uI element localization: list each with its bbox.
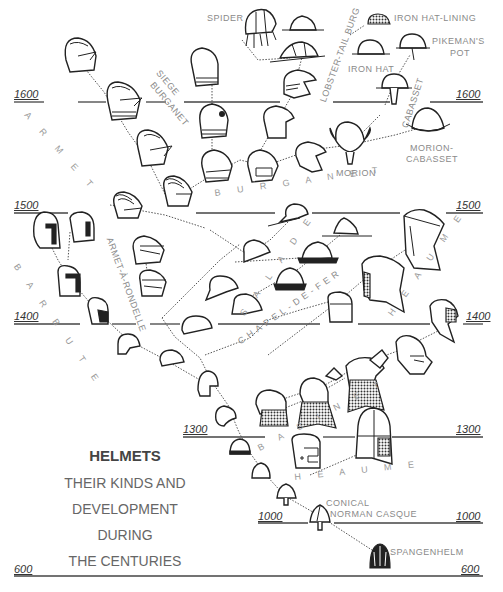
heaume-small-helmet <box>328 292 352 322</box>
chapel-de-fer-helmet-1 <box>322 218 372 236</box>
title-line-1: THEIR KINDS AND <box>60 470 190 496</box>
title-main: HELMETS <box>60 447 190 464</box>
barbute-helmet-4 <box>88 298 108 324</box>
siege-burganet-helmet-3 <box>202 150 232 182</box>
armet-helmet-1 <box>65 38 96 72</box>
morion-helmet <box>330 122 370 164</box>
label-morion: MORION <box>336 168 376 178</box>
bascinet-helmet-5 <box>256 390 288 426</box>
great-helm-cross-helmet <box>356 408 392 464</box>
barbute-helmet-1 <box>34 212 60 248</box>
burganet-helmet-1 <box>248 150 278 182</box>
label-pikemans-pot-2: POT <box>450 48 470 58</box>
pikemans-pot-helmet <box>396 34 430 60</box>
round-cap-helmet <box>216 406 236 426</box>
label-morion-cabasset-1: MORION- <box>410 143 454 153</box>
armet-helmet-5 <box>114 192 142 218</box>
label-spider: SPIDER <box>207 13 244 23</box>
era-label-1400-right: 1400 <box>466 310 490 322</box>
lobster-tail-burg-helmet <box>284 70 316 98</box>
era-label-1300-right: 1300 <box>456 423 480 435</box>
armet-a-rondelle-helmet-2 <box>140 270 166 296</box>
salade-helmet-3 <box>206 276 238 300</box>
era-label-1600-right: 1600 <box>456 88 480 100</box>
conical-helmet-small <box>277 484 296 505</box>
siege-burganet-helmet-1 <box>191 48 218 86</box>
label-spangenhelm: SPANGENHELM <box>390 547 464 557</box>
era-label-600-right: 600 <box>461 563 479 575</box>
burganet-helmet-3 <box>296 142 326 172</box>
bascinet-helmet-1 <box>430 300 458 342</box>
era-label-1000-right: 1000 <box>456 510 480 522</box>
salade-helmet-4 <box>182 316 212 334</box>
kettle-hat-small <box>198 371 218 396</box>
early-dome-helmet <box>252 463 270 478</box>
armet-a-rondelle-helmet-1 <box>133 236 164 264</box>
era-label-1600-left: 1600 <box>14 88 38 100</box>
conical-norman-casque-helmet <box>310 505 330 530</box>
salade-helmet-2 <box>244 240 270 262</box>
barbute-helmet-5 <box>118 334 140 354</box>
label-morion-cabasset-2: CABASSET <box>406 154 458 164</box>
spangenhelm-helmet <box>370 544 390 568</box>
great-helm-flat-helmet <box>292 434 320 468</box>
dome-helmet-dark-rim <box>230 439 250 454</box>
armet-helmet-2 <box>107 82 142 120</box>
siege-burganet-helmet-2 <box>200 104 228 138</box>
barbute-helmet-6 <box>160 350 184 366</box>
armet-helmet-3 <box>137 130 172 166</box>
era-label-600-left: 600 <box>14 563 32 575</box>
label-conical-1: CONICAL <box>326 498 370 508</box>
armet-helmet-4 <box>164 176 192 206</box>
era-label-1000-left: 1000 <box>258 510 282 522</box>
label-iron-hat: IRON HAT <box>348 64 394 74</box>
era-label-1400-left: 1400 <box>14 310 38 322</box>
iron-hat-helmet <box>352 40 390 54</box>
spider-helmet <box>246 10 277 49</box>
era-label-1300-left: 1300 <box>183 423 207 435</box>
title-block: HELMETS THEIR KINDS AND DEVELOPMENT DURI… <box>60 447 190 574</box>
burganet-helmet-2 <box>264 106 294 138</box>
chapel-de-fer-helmet-2 <box>298 242 338 263</box>
era-label-1500-left: 1500 <box>14 199 38 211</box>
label-pikemans-pot-1: PIKEMAN'S <box>432 36 485 46</box>
bascinet-helmet-2 <box>396 336 432 374</box>
title-line-2: DEVELOPMENT DURING <box>60 496 190 548</box>
barbute-helmet-3 <box>58 266 80 296</box>
title-line-3: THE CENTURIES <box>60 548 190 574</box>
chapel-de-fer-helmet-3 <box>274 268 306 290</box>
iron-hat-top-helmet <box>282 16 324 30</box>
barbute-helmet-2 <box>70 212 94 242</box>
label-iron-hat-lining: IRON HAT-LINING <box>394 13 476 23</box>
iron-hat-lining-helmet <box>368 14 390 24</box>
label-conical-2: NORMAN CASQUE <box>330 509 417 519</box>
cabasset-helmet <box>376 74 412 104</box>
